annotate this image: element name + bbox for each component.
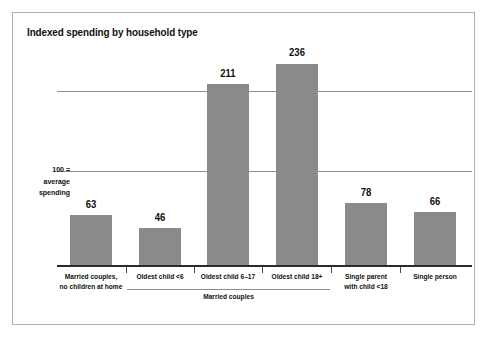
chart-frame: [12, 12, 475, 325]
chart-title: Indexed spending by household type: [27, 26, 198, 38]
chart-figure: Indexed spending by household type 100 =…: [0, 0, 489, 340]
